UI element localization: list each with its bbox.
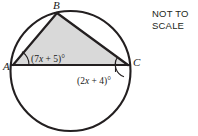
angle-label-a: (7x + 5)° bbox=[31, 54, 65, 65]
vertex-label-b: B bbox=[53, 0, 60, 11]
geometry-figure: A B C (7x + 5)° (2x + 4)° NOT TO SCALE bbox=[0, 0, 198, 136]
angle-label-a-suffix: + 5)° bbox=[43, 54, 65, 65]
not-to-scale-note: NOT TO SCALE bbox=[152, 8, 196, 31]
angle-label-c-suffix: + 4)° bbox=[89, 76, 111, 87]
angle-label-c: (2x + 4)° bbox=[77, 76, 111, 87]
vertex-label-c: C bbox=[133, 56, 141, 68]
vertex-label-a: A bbox=[2, 60, 10, 72]
